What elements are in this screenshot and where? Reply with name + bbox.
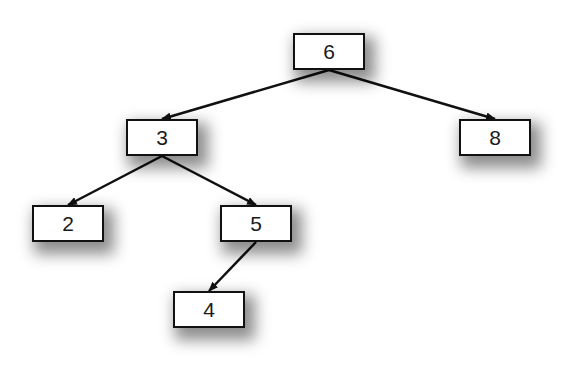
edge-6-to-3 [162, 70, 329, 119]
node-label: 5 [250, 213, 262, 234]
edge-5-to-4 [209, 242, 256, 291]
tree-node-8: 8 [459, 119, 531, 156]
tree-diagram: 6 3 8 2 5 4 [0, 0, 561, 365]
node-label: 2 [62, 213, 74, 234]
edge-3-to-2 [68, 156, 162, 205]
tree-node-3: 3 [126, 119, 198, 156]
edge-3-to-5 [162, 156, 256, 205]
tree-node-4: 4 [173, 291, 245, 328]
node-label: 6 [323, 41, 335, 62]
tree-node-2: 2 [32, 205, 104, 242]
tree-node-6: 6 [293, 33, 365, 70]
edge-6-to-8 [329, 70, 495, 119]
tree-node-5: 5 [220, 205, 292, 242]
node-label: 3 [156, 127, 168, 148]
tree-edges [0, 0, 561, 365]
node-label: 8 [489, 127, 501, 148]
node-label: 4 [203, 299, 215, 320]
